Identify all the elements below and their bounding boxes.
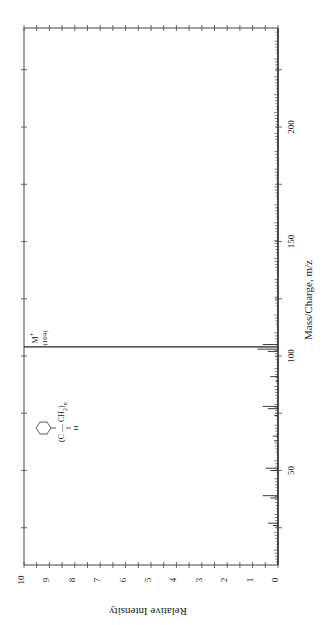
intensity-tick-label: 5: [143, 577, 153, 582]
x-axis-label: Mass/Charge, m/z: [302, 260, 314, 340]
mz-tick-label: 200: [286, 120, 296, 134]
intensity-tick-label: 8: [67, 577, 77, 582]
mz-tick-label: 150: [286, 234, 296, 248]
spectrum-peaks: [24, 32, 278, 562]
intensity-tick-label: 7: [92, 577, 102, 582]
structure-h: H: [72, 425, 80, 430]
svg-text:(C — CH2)n: (C — CH2)n: [57, 402, 68, 442]
mz-tick-label: 50: [286, 466, 296, 476]
intensity-tick-label: 6: [118, 577, 128, 582]
y-axis-label: Relative Intensity: [109, 606, 187, 618]
intensity-tick-label: 9: [41, 577, 51, 582]
intensity-tick-label: 0: [270, 577, 280, 582]
intensity-tick-label: 4: [168, 577, 178, 582]
mass-spectrum-chart: 01234567891050100150200 Mass/Charge, m/z…: [0, 0, 326, 625]
molecular-ion-charge: +: [28, 332, 36, 336]
structure-n: n: [62, 402, 68, 405]
structure-chain: C — CH: [57, 411, 66, 440]
axis-tick-labels: 01234567891050100150200: [16, 120, 296, 585]
intensity-tick-label: 3: [194, 577, 204, 582]
plot-frame: [24, 28, 278, 565]
structure-annotation: (C — CH2)n H: [36, 402, 80, 442]
molecular-ion-label: M: [31, 336, 40, 343]
molecular-ion-mass: (104): [41, 330, 49, 346]
intensity-tick-label: 2: [219, 578, 229, 583]
benzene-ring-icon: [36, 422, 51, 434]
mz-tick-label: 100: [286, 349, 296, 363]
chart-canvas: 01234567891050100150200 Mass/Charge, m/z…: [0, 0, 326, 625]
axis-ticks: [21, 25, 282, 568]
intensity-tick-label: 10: [16, 575, 26, 585]
intensity-tick-label: 1: [245, 578, 255, 583]
molecular-ion-annotation: M+ (104): [28, 330, 49, 346]
svg-text:M+: M+: [28, 332, 40, 343]
